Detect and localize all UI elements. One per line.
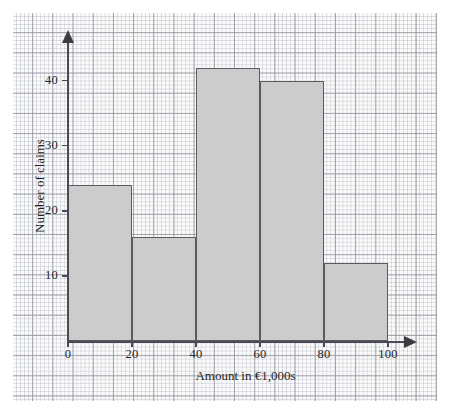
histogram-figure: 0 20 40 60 80 100 10 20 30 40 Amount in … bbox=[0, 0, 449, 416]
y-tick-mark bbox=[62, 145, 68, 147]
x-tick-label: 60 bbox=[240, 347, 280, 362]
x-axis-title-text: Amount in €1,000s bbox=[195, 368, 295, 384]
y-axis-title: Number of claims bbox=[32, 86, 48, 286]
y-tick-mark bbox=[62, 210, 68, 212]
y-axis-line bbox=[67, 40, 69, 343]
y-tick-mark bbox=[62, 80, 68, 82]
histogram-bar bbox=[324, 263, 388, 341]
y-axis-arrow-icon bbox=[62, 30, 74, 43]
x-tick-label: 40 bbox=[176, 347, 216, 362]
x-axis-line bbox=[67, 341, 407, 343]
histogram-bar bbox=[260, 81, 324, 341]
histogram-bar bbox=[196, 68, 260, 341]
plot-area: 0 20 40 60 80 100 10 20 30 40 Amount in … bbox=[0, 0, 449, 416]
histogram-bar bbox=[68, 185, 132, 341]
histogram-bar bbox=[132, 237, 196, 341]
x-tick-label: 20 bbox=[112, 347, 152, 362]
y-tick-mark bbox=[62, 275, 68, 277]
x-tick-label: 0 bbox=[48, 347, 88, 362]
x-axis-title: Amount in €1,000s bbox=[0, 368, 449, 384]
x-tick-label: 80 bbox=[304, 347, 344, 362]
x-tick-label: 100 bbox=[368, 347, 408, 362]
